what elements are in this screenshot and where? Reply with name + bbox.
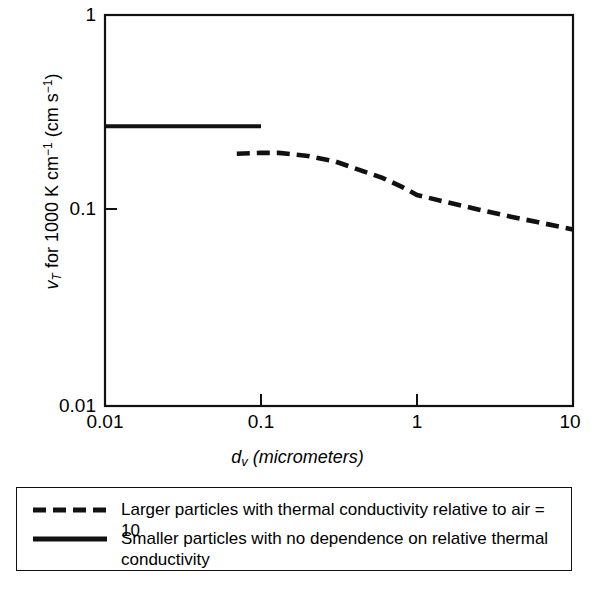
x-tick-label-10: 10 [549,412,591,431]
figure: 1 0.1 0.01 0.01 0.1 1 10 dv (micrometers… [0,0,595,596]
y-axis-title-unit-close: ) [42,74,62,80]
x-tick-marks [261,394,417,406]
y-axis-title-subscript: T [50,273,64,280]
y-axis-title-symbol: v [42,280,62,289]
y-axis-title-rest: for 1000 K cm [42,156,62,273]
x-axis-title-unit: (micrometers) [253,447,364,467]
y-axis-title-exponent-2: −1 [41,80,55,94]
x-tick-label-0.01: 0.01 [71,412,139,431]
x-tick-label-1: 1 [397,412,437,431]
series-line-dashed [237,153,573,230]
y-axis-title-unit-open: (cm s [42,93,62,142]
x-axis-title: dv (micrometers) [0,447,595,469]
y-axis-title-exponent-1: −1 [41,142,55,156]
x-axis-title-subscript: v [241,454,248,469]
legend-label-solid: Smaller particles with no dependence on … [121,528,561,570]
legend-box: Larger particles with thermal conductivi… [16,487,572,571]
legend-item-solid: Smaller particles with no dependence on … [31,528,561,570]
plot-frame [105,15,573,406]
x-axis-title-symbol: d [231,447,241,467]
legend-swatch-dashed-line [31,501,109,519]
y-axis-title: vT for 1000 K cm−1 (cm s−1) [41,12,64,352]
plot-area: 1 0.1 0.01 0.01 0.1 1 10 dv (micrometers… [0,0,595,480]
legend-swatch-solid-line [31,530,109,548]
x-tick-label-0.1: 0.1 [233,412,289,431]
